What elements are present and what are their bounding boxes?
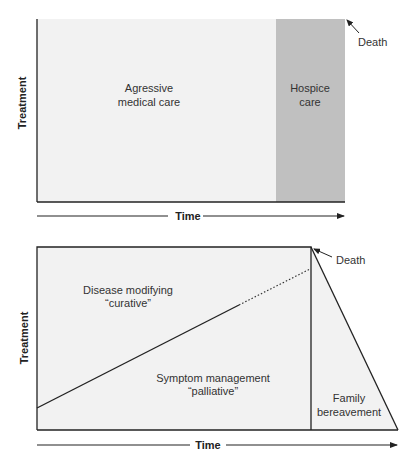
- curative-label-2: “curative”: [105, 297, 151, 309]
- palliative-label-2: “palliative”: [188, 385, 238, 397]
- bottom-diagram: Disease modifying “curative” Symptom man…: [18, 247, 398, 451]
- top-y-axis-label: Treatment: [16, 76, 28, 129]
- top-diagram: Agressive medical care Hospice care Deat…: [16, 19, 387, 222]
- bottom-death-label: Death: [336, 254, 365, 266]
- bereavement-label-2: bereavement: [317, 406, 381, 418]
- top-death-label: Death: [358, 36, 387, 48]
- bottom-x-axis-label: Time: [195, 439, 220, 451]
- hospice-care-label-2: care: [299, 96, 320, 108]
- care-models-diagram: Agressive medical care Hospice care Deat…: [0, 0, 418, 465]
- top-x-axis-label: Time: [175, 210, 200, 222]
- aggressive-care-region: [37, 19, 276, 202]
- aggressive-care-label-1: Agressive: [125, 82, 173, 94]
- palliative-label-1: Symptom management: [156, 372, 270, 384]
- curative-label-1: Disease modifying: [83, 284, 173, 296]
- hospice-care-region: [276, 19, 345, 202]
- top-death-arrow: [347, 20, 359, 33]
- bottom-death-arrow: [314, 249, 332, 257]
- bereavement-label-1: Family: [333, 392, 366, 404]
- hospice-care-label-1: Hospice: [290, 82, 330, 94]
- aggressive-care-label-2: medical care: [118, 96, 180, 108]
- bottom-y-axis-label: Treatment: [18, 311, 30, 364]
